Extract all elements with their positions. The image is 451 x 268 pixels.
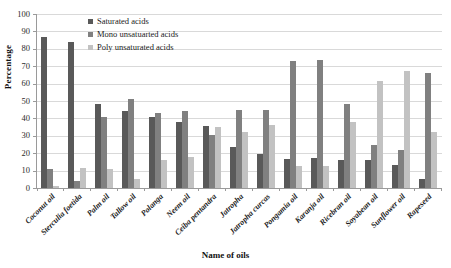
y-axis-tick-label: 50: [2, 97, 30, 106]
y-axis-tick-label: 20: [2, 149, 30, 158]
bar: [47, 169, 53, 188]
x-axis-labels: Coconut oilSterculia foetidaPalm oilTall…: [36, 190, 442, 252]
bar: [134, 179, 140, 188]
y-axis-tick-label: 0: [2, 184, 30, 193]
legend-label: Saturated acids: [97, 16, 149, 26]
bar-group: [199, 14, 226, 188]
x-label-cell: Polanga: [145, 190, 172, 252]
bar-group: [414, 14, 441, 188]
bar: [128, 99, 134, 188]
bar: [404, 71, 410, 188]
bar-group: [64, 14, 91, 188]
chart-legend: Saturated acidsMono unsatuarted acidsPol…: [88, 16, 178, 52]
bar: [323, 166, 329, 188]
x-label-cell: Sunflower oil: [387, 190, 414, 252]
legend-item: Saturated acids: [88, 16, 178, 26]
y-axis-tick-label: 60: [2, 79, 30, 88]
y-axis-ticks: 0102030405060708090100: [2, 14, 32, 188]
x-axis-title: Name of oils: [0, 250, 451, 260]
bar: [296, 166, 302, 188]
y-axis-tick-label: 80: [2, 44, 30, 53]
x-label-cell: Sterculia foetida: [64, 190, 91, 252]
y-axis-tick-label: 70: [2, 62, 30, 71]
x-label-cell: Rapeseed: [414, 190, 441, 252]
bar-group: [333, 14, 360, 188]
legend-label: Mono unsatuarted acids: [97, 29, 178, 39]
y-axis-tick-label: 90: [2, 27, 30, 36]
legend-swatch-icon: [88, 19, 93, 24]
y-axis-tick-label: 100: [2, 10, 30, 19]
legend-swatch-icon: [88, 45, 93, 50]
bar: [107, 169, 113, 188]
bar: [431, 132, 437, 188]
bar: [41, 37, 47, 188]
x-label-cell: Tallow oil: [118, 190, 145, 252]
bar-chart: Percentage 0102030405060708090100 Coconu…: [0, 0, 451, 268]
y-axis-tick-label: 10: [2, 166, 30, 175]
bar-group: [306, 14, 333, 188]
bar-group: [279, 14, 306, 188]
bar: [68, 42, 74, 188]
bar-group: [37, 14, 64, 188]
bar-group: [253, 14, 280, 188]
legend-item: Mono unsatuarted acids: [88, 29, 178, 39]
legend-item: Poly unsaturated acids: [88, 42, 178, 52]
y-axis-tick-label: 40: [2, 114, 30, 123]
x-label-cell: Ceiba pentandra: [199, 190, 226, 252]
legend-label: Poly unsaturated acids: [97, 42, 173, 52]
bar: [269, 125, 275, 188]
bar: [161, 160, 167, 188]
bar: [215, 127, 221, 188]
bar: [188, 157, 194, 188]
bar-group: [226, 14, 253, 188]
bar: [242, 132, 248, 188]
bar-group: [387, 14, 414, 188]
y-axis-tick-label: 30: [2, 131, 30, 140]
bar: [350, 122, 356, 188]
bar: [80, 168, 86, 188]
bar: [377, 81, 383, 188]
bar-group: [360, 14, 387, 188]
legend-swatch-icon: [88, 32, 93, 37]
